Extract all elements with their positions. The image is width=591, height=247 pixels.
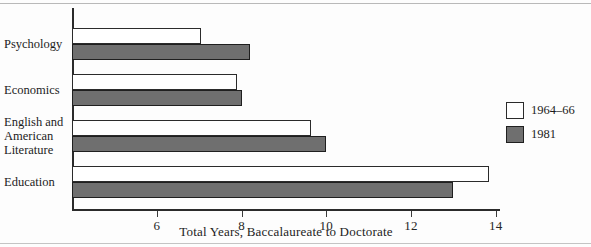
x-axis-title: Total Years, Baccalaureate to Doctorate: [72, 224, 500, 240]
x-tick: [496, 211, 497, 217]
bar-chart-figure: 68101214 PsychologyEconomicsEnglish andA…: [0, 0, 591, 247]
bar-education-1964-66: [72, 166, 489, 182]
category-label-line: American: [4, 129, 70, 143]
legend-label: 1981: [531, 127, 556, 142]
category-label-line: Psychology: [4, 37, 70, 51]
legend-label: 1964–66: [531, 103, 575, 118]
legend-swatch-light-icon: [506, 102, 524, 119]
x-tick: [411, 211, 412, 217]
page-rule-bottom: [0, 243, 591, 244]
category-label-english-and-american-literature: English andAmericanLiterature: [4, 115, 70, 157]
legend-swatch-dark-icon: [506, 126, 524, 143]
bar-english-and-american-literature-1981: [72, 136, 326, 152]
category-label-line: Economics: [4, 83, 70, 97]
chart-legend: 1964–66 1981: [506, 100, 575, 148]
category-label-education: Education: [4, 175, 70, 189]
category-label-line: Literature: [4, 143, 70, 157]
bar-economics-1981: [72, 90, 242, 106]
legend-item-1964-66: 1964–66: [506, 100, 575, 121]
bar-psychology-1964-66: [72, 28, 201, 44]
bar-english-and-american-literature-1964-66: [72, 120, 311, 136]
x-axis-line: [72, 209, 500, 211]
page-rule-top: [0, 3, 591, 4]
bar-psychology-1981: [72, 44, 250, 60]
category-label-line: Education: [4, 175, 70, 189]
category-label-economics: Economics: [4, 83, 70, 97]
category-label-psychology: Psychology: [4, 37, 70, 51]
x-tick: [157, 211, 158, 217]
category-label-line: English and: [4, 115, 70, 129]
legend-item-1981: 1981: [506, 124, 575, 145]
x-tick: [242, 211, 243, 217]
plot-area: 68101214: [72, 8, 500, 211]
bar-education-1981: [72, 182, 453, 198]
bar-economics-1964-66: [72, 74, 237, 90]
x-tick: [326, 211, 327, 217]
